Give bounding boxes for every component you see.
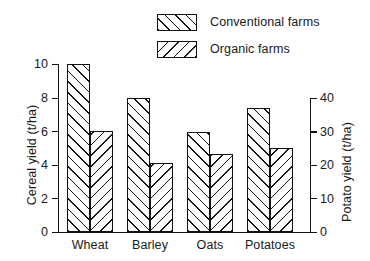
left-axis-line — [58, 64, 59, 233]
right-ticklabel-0: 0 — [320, 226, 327, 239]
legend-label-organic: Organic farms — [210, 42, 290, 56]
category-label-potatoes: Potatoes — [230, 238, 310, 252]
legend-item-conventional: Conventional farms — [157, 12, 320, 32]
left-ticklabel-2: 2 — [41, 193, 48, 206]
left-ticklabel-0: 0 — [41, 226, 48, 239]
left-ticklabel-10: 10 — [34, 58, 48, 71]
baseline-axis — [58, 232, 311, 233]
left-tick-10 — [52, 64, 59, 65]
left-tick-6 — [52, 131, 59, 132]
right-ticklabel-10: 10 — [320, 193, 334, 206]
bar-oats-conventional — [187, 132, 210, 232]
left-tick-2 — [52, 198, 59, 199]
left-ticklabel-4: 4 — [41, 159, 48, 172]
bar-oats-organic — [210, 154, 233, 232]
left-ticklabel-6: 6 — [41, 126, 48, 139]
bar-chart-figure: Conventional farms Organic farms 0 2 4 6… — [0, 0, 370, 261]
bar-wheat-organic — [90, 131, 113, 232]
left-tick-4 — [52, 165, 59, 166]
legend-label-conventional: Conventional farms — [210, 15, 320, 29]
legend-item-organic: Organic farms — [157, 39, 320, 59]
right-ticklabel-20: 20 — [320, 159, 334, 172]
bar-barley-conventional — [127, 98, 150, 232]
right-ticklabel-40: 40 — [320, 92, 334, 105]
back-hatch-swatch — [157, 41, 197, 58]
left-tick-0 — [52, 232, 59, 233]
left-tick-8 — [52, 98, 59, 99]
right-tick-30 — [310, 131, 317, 132]
left-axis-title: Cereal yield (t/ha) — [25, 75, 39, 235]
forward-hatch-swatch — [157, 14, 197, 31]
right-tick-20 — [310, 165, 317, 166]
right-tick-0 — [310, 232, 317, 233]
bar-potatoes-conventional — [247, 108, 270, 232]
bar-wheat-conventional — [67, 64, 90, 232]
right-tick-10 — [310, 198, 317, 199]
chart-legend: Conventional farms Organic farms — [157, 12, 320, 66]
bar-potatoes-organic — [270, 148, 293, 232]
right-ticklabel-30: 30 — [320, 126, 334, 139]
right-tick-40 — [310, 98, 317, 99]
bar-barley-organic — [150, 163, 173, 232]
left-ticklabel-8: 8 — [41, 92, 48, 105]
right-axis-title: Potato yield (t/ha) — [340, 92, 354, 252]
